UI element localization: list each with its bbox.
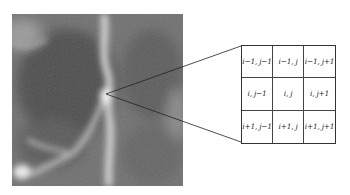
grid-cell-bottom-right: i+1, j+1 [304,111,335,143]
grid-cell-middle-right: i, j+1 [304,78,335,110]
grid-cell-top-center: i−1, j [273,46,304,78]
grid-cell-bottom-left: i+1, j−1 [242,111,273,143]
grayscale-texture-image [12,14,183,186]
grid-cell-center: i, j [273,78,304,110]
grid-cell-top-left: i−1, j−1 [242,46,273,78]
pixel-neighborhood-grid: i−1, j−1 i−1, j i−1, j+1 i, j−1 i, j i, … [241,45,336,144]
texture-image-graphic [12,14,183,186]
grid-cell-middle-left: i, j−1 [242,78,273,110]
grid-cell-bottom-center: i+1, j [273,111,304,143]
grid-cell-top-right: i−1, j+1 [304,46,335,78]
